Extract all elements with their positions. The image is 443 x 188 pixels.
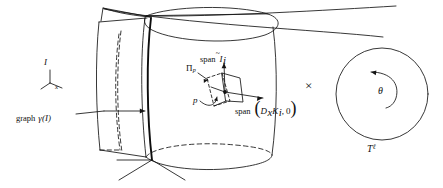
graph-gamma-label-prefix: graph <box>16 113 35 123</box>
span-horizontal-prefix: span <box>235 106 251 116</box>
graph-gamma-curve <box>148 18 152 160</box>
figure-canvas: I x graphγ(I) Πp p span~Ii span(DxKi,0) … <box>0 0 443 188</box>
torus-symbol: T <box>367 143 373 154</box>
cylinder-right-edge <box>272 27 276 155</box>
interval-axis-label-I: I <box>44 58 47 67</box>
span-horizontal-open-paren: ( <box>251 98 261 118</box>
span-horizontal-label: span(DxKi,0) <box>235 100 297 118</box>
span-vertical-subscript: i <box>223 54 226 66</box>
graph-label-leader <box>76 109 145 114</box>
cylinder-left-edge <box>142 18 146 157</box>
point-label-leader <box>200 97 218 105</box>
plane-label-leader <box>198 73 208 83</box>
span-vertical-symbol: I <box>220 54 223 64</box>
torus-superscript: ℓ <box>373 143 376 151</box>
graph-gamma-curve-hidden <box>118 31 122 152</box>
plane-pi-symbol: Π <box>186 63 193 73</box>
figure-linework <box>0 0 443 188</box>
span-horizontal-close-paren: ) <box>291 98 297 118</box>
tilde-accent: ~ <box>216 50 220 58</box>
graph-gamma-label: graphγ(I) <box>16 108 51 124</box>
interval-axis-cross <box>41 70 62 89</box>
plane-pi-p-label: Πp <box>186 64 196 73</box>
theta-angle-label: θ <box>378 86 383 96</box>
interval-axis-label-x: x <box>55 84 58 91</box>
cylinder-bottom-rim-hidden <box>146 144 272 157</box>
crossing-construction-lines <box>104 6 396 37</box>
span-vertical-symbol-group: ~I <box>216 55 223 64</box>
plane-pi-subscript: p <box>193 67 196 73</box>
graph-gamma-label-symbol: γ(I) <box>35 113 51 123</box>
point-p-label: p <box>193 96 198 105</box>
span-vertical-label: span~Ii <box>200 49 226 66</box>
theta-rotation-arc <box>371 70 397 108</box>
base-crossing-lines <box>117 160 185 180</box>
span-vertical-prefix: span <box>200 54 216 64</box>
cartesian-product-icon: × <box>305 79 312 92</box>
left-sheet <box>96 8 151 157</box>
torus-name-label: Tℓ <box>367 144 376 154</box>
cylinder-top-rim <box>144 7 278 41</box>
